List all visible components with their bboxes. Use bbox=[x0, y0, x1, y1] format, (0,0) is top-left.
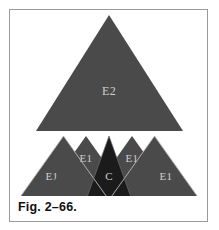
triangle-e1-outer-right-label: E1 bbox=[160, 170, 173, 182]
triangle-e2: E2 bbox=[36, 15, 183, 131]
figure-caption: Fig. 2–66. bbox=[18, 200, 77, 214]
triangle-e2-label: E2 bbox=[102, 84, 116, 98]
triangle-c-label: C bbox=[105, 170, 113, 182]
figure-container: E2 E1 E1 E1 E1 C bbox=[0, 0, 219, 230]
triangle-e2-shape bbox=[36, 15, 183, 131]
caption-bar: Fig. 2–66. bbox=[10, 196, 207, 221]
